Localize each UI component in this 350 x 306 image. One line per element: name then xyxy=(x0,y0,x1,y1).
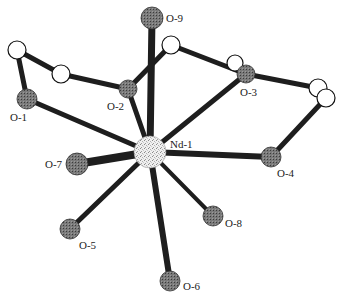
neodymium-atom xyxy=(134,136,166,168)
label-nd1: Nd-1 xyxy=(170,138,193,150)
carbon-atom xyxy=(162,36,180,54)
carbon-atoms xyxy=(8,36,335,107)
oxygen-atom-o3 xyxy=(237,65,255,83)
oxygen-atom-o9 xyxy=(141,7,163,29)
carbon-atom xyxy=(52,65,70,83)
oxygen-atom-o6 xyxy=(160,271,180,291)
oxygen-atom-o2 xyxy=(119,80,137,98)
label-o3: O-3 xyxy=(240,86,258,98)
label-o5: O-5 xyxy=(79,239,97,251)
oxygen-atom-o5 xyxy=(60,219,80,239)
label-o4: O-4 xyxy=(277,167,295,179)
oxygen-atom-o4 xyxy=(261,147,281,167)
label-o6: O-6 xyxy=(183,280,201,292)
label-o2: O-2 xyxy=(107,100,124,112)
carbon-atom xyxy=(317,89,335,107)
oxygen-atom-o1 xyxy=(17,89,37,109)
label-o8: O-8 xyxy=(225,217,243,229)
label-o9: O-9 xyxy=(166,12,184,24)
oxygen-atom-o8 xyxy=(203,206,223,226)
label-o1: O-1 xyxy=(10,111,27,123)
oxygen-atom-o7 xyxy=(66,153,88,175)
carbon-atom xyxy=(8,41,26,59)
coordination-diagram: Nd-1 O-1 O-2 O-3 O-4 O-5 O-6 O-7 O-8 O-9 xyxy=(0,0,350,306)
label-o7: O-7 xyxy=(45,158,63,170)
